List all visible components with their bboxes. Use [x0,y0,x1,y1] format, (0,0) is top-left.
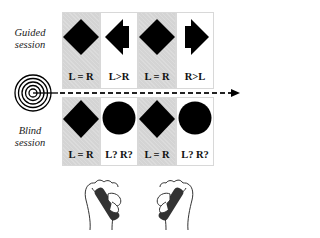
hand-1 [82,172,126,232]
arrowhead-icon [231,89,240,97]
hand-gripping-handle-icon [82,172,126,232]
hand-gripping-handle-icon [152,172,196,232]
hand-2 [152,172,196,232]
